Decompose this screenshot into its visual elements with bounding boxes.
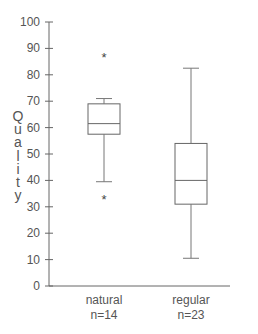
y-tick-label: 100 bbox=[20, 15, 40, 29]
y-tick-label: 60 bbox=[27, 121, 41, 135]
box-plot-chart: 0102030405060708090100 Quality ** natura… bbox=[0, 0, 258, 334]
iqr-box bbox=[175, 143, 207, 204]
y-tick-label: 30 bbox=[27, 200, 41, 214]
outlier-marker: * bbox=[101, 192, 106, 207]
y-axis-label: Quality bbox=[13, 108, 24, 203]
y-tick-label: 0 bbox=[33, 279, 40, 293]
sample-size-label: n=23 bbox=[177, 308, 204, 322]
y-tick-label: 40 bbox=[27, 173, 41, 187]
y-tick-label: 80 bbox=[27, 68, 41, 82]
category-label: regular bbox=[172, 293, 209, 307]
y-tick-label: 50 bbox=[27, 147, 41, 161]
x-axis-labels: naturaln=14regularn=23 bbox=[86, 293, 210, 322]
y-label-letter: y bbox=[15, 187, 22, 203]
y-tick-label: 20 bbox=[27, 226, 41, 240]
box-natural: ** bbox=[88, 50, 120, 208]
category-label: natural bbox=[86, 293, 123, 307]
boxes: ** bbox=[88, 50, 207, 259]
y-tick-label: 90 bbox=[27, 41, 41, 55]
sample-size-label: n=14 bbox=[90, 308, 117, 322]
iqr-box bbox=[88, 104, 120, 134]
box-regular bbox=[175, 68, 207, 258]
y-tick-label: 70 bbox=[27, 94, 41, 108]
y-tick-label: 10 bbox=[27, 253, 41, 267]
outlier-marker: * bbox=[101, 50, 106, 65]
